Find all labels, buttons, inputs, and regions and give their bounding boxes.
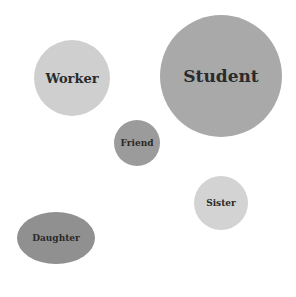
node-daughter: Daughter [17, 212, 95, 264]
node-label: Student [183, 66, 258, 86]
node-friend: Friend [114, 120, 160, 166]
node-label: Friend [121, 138, 154, 148]
node-student: Student [160, 15, 282, 137]
node-worker: Worker [34, 40, 110, 116]
node-label: Sister [206, 198, 236, 208]
node-label: Daughter [32, 233, 80, 243]
node-label: Worker [45, 71, 98, 86]
node-sister: Sister [194, 176, 248, 230]
